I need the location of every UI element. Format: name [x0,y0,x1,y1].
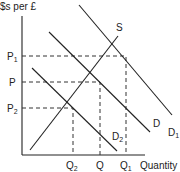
demand-curve-d1 [79,5,172,115]
demand2-label: D2 [112,131,123,143]
p-q-guide [22,82,100,155]
p2-q2-guide [22,108,73,155]
x-axis-label: Quantity [140,160,177,171]
supply-demand-diagram: $s per £ Quantity S D1 D D2 P1 P P2 Q2 Q… [0,0,180,172]
y-axis-label: $s per £ [0,1,37,12]
price-p2-label: P2 [7,103,18,115]
quantity-q-label: Q [96,160,104,171]
quantity-q2-label: Q2 [66,160,78,172]
demand-label: D [153,118,160,129]
demand1-label: D1 [168,127,179,139]
price-p-label: P [9,77,16,88]
quantity-q1-label: Q1 [120,160,132,172]
supply-label: S [116,22,123,33]
supply-curve [30,36,118,150]
demand-curve-d2 [32,68,117,151]
price-p1-label: P1 [7,51,18,63]
